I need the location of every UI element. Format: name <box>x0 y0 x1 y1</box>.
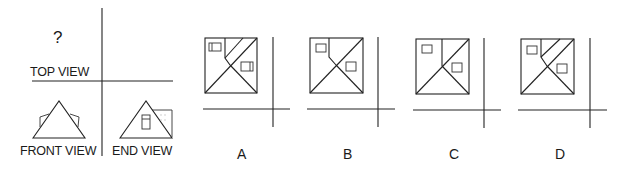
option-d-skylight-2 <box>557 64 567 73</box>
front-view-dormer-right <box>70 114 79 127</box>
front-view-label: FRONT VIEW <box>20 144 96 158</box>
option-c-label[interactable]: C <box>449 146 459 162</box>
option-a-skylight-2 <box>241 62 253 71</box>
option-a-label[interactable]: A <box>237 146 246 162</box>
option-d-skylight-1 <box>527 46 537 54</box>
top-view-label: TOP VIEW <box>30 65 89 79</box>
unknown-view-marker: ? <box>53 28 62 48</box>
option-c-skylight-2 <box>452 63 462 72</box>
option-b-skylight-2 <box>346 62 356 71</box>
option-d-label[interactable]: D <box>555 146 565 162</box>
end-view-label: END VIEW <box>112 144 172 158</box>
option-d-drawing[interactable] <box>518 38 607 128</box>
option-b-skylight-1 <box>316 44 326 52</box>
option-c-drawing[interactable] <box>413 38 501 128</box>
end-view-roof <box>120 101 172 138</box>
front-view-dormer-left <box>40 114 49 127</box>
option-b-drawing[interactable] <box>307 37 395 127</box>
option-a-drawing[interactable] <box>203 37 290 127</box>
option-b-label[interactable]: B <box>343 146 352 162</box>
option-a-skylight-1 <box>209 43 221 51</box>
front-view-roof <box>33 101 85 138</box>
front-view-drawing <box>33 101 85 138</box>
end-view-skylight <box>142 115 150 129</box>
end-view-drawing <box>120 101 172 138</box>
option-c-skylight-1 <box>422 45 432 53</box>
